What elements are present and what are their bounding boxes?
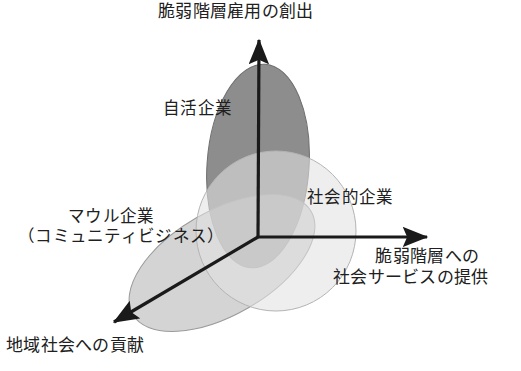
set-label-maul-community-business: マウル企業（コミュニティビジネス） <box>68 207 225 247</box>
axis-label-horizontal-line2: 社会サービスの提供 <box>333 268 489 289</box>
axis-label-horizontal: 脆弱階層への社会サービスの提供 <box>366 247 489 288</box>
axis-label-diagonal: 地域社会への貢献 <box>6 336 144 357</box>
vertical-axis-line <box>258 40 259 237</box>
axis-label-vertical: 脆弱階層雇用の創出 <box>158 2 314 23</box>
set-label-maul-line2: （コミュニティビジネス） <box>18 227 225 247</box>
diagram-canvas <box>0 0 521 371</box>
set-label-jikatsu-enterprise: 自活企業 <box>163 99 232 119</box>
venn-axis-diagram: 脆弱階層雇用の創出 脆弱階層への社会サービスの提供 地域社会への貢献 自活企業 … <box>0 0 521 371</box>
set-label-social-enterprise: 社会的企業 <box>307 188 394 208</box>
axis-label-horizontal-line1: 脆弱階層への <box>375 247 479 266</box>
set-label-maul-line1: マウル企業 <box>68 207 155 226</box>
